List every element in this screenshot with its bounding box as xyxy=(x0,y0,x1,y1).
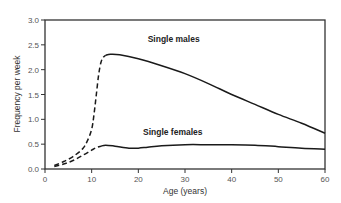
series-lines xyxy=(54,54,325,166)
single-males-solid-line xyxy=(106,54,325,133)
single-males-dashed-line xyxy=(54,55,105,165)
series-label-single-females: Single females xyxy=(143,127,203,137)
x-tick-label: 0 xyxy=(43,175,48,184)
line-chart: 0.00.51.01.52.02.53.0 0102030405060 Freq… xyxy=(0,0,341,203)
y-tick-label: 2.0 xyxy=(28,66,40,75)
single-females-solid-line xyxy=(101,145,325,150)
y-tick-label: 2.5 xyxy=(28,41,40,50)
x-axis-title: Age (years) xyxy=(163,186,207,196)
x-tick-label: 30 xyxy=(181,175,190,184)
x-tick-label: 20 xyxy=(134,175,143,184)
y-tick-label: 0.5 xyxy=(28,140,40,149)
series-label-single-males: Single males xyxy=(148,34,200,44)
x-tick-label: 60 xyxy=(321,175,330,184)
x-tick-label: 10 xyxy=(87,175,96,184)
y-axis-title: Frequency per week xyxy=(12,55,22,133)
x-axis-ticks: 0102030405060 xyxy=(43,169,330,184)
x-tick-label: 40 xyxy=(227,175,236,184)
y-tick-label: 1.0 xyxy=(28,115,40,124)
y-axis-ticks: 0.00.51.01.52.02.53.0 xyxy=(28,16,45,174)
single-females-dashed-line xyxy=(54,146,101,166)
y-tick-label: 0.0 xyxy=(28,165,40,174)
y-tick-label: 1.5 xyxy=(28,91,40,100)
y-tick-label: 3.0 xyxy=(28,16,40,25)
x-tick-label: 50 xyxy=(274,175,283,184)
